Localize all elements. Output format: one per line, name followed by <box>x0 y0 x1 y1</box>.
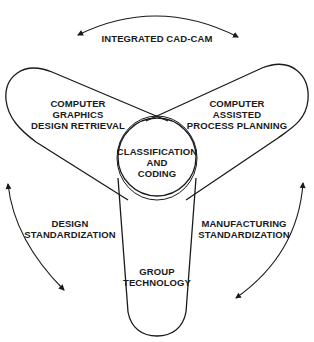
label-classification-coding: CLASSIFICATION AND CODING <box>114 146 200 179</box>
label-process-planning: COMPUTER ASSISTED PROCESS PLANNING <box>186 98 288 131</box>
label-manufacturing-standardization: MANUFACTURING STANDARDIZATION <box>196 218 292 240</box>
lobe-process-planning <box>146 64 308 200</box>
label-group-technology: GROUP TECHNOLOGY <box>117 266 197 288</box>
lobe-group-technology <box>118 178 196 336</box>
label-integrated-cad-cam: INTEGRATED CAD-CAM <box>90 33 224 44</box>
label-design-standardization: DESIGN STANDARDIZATION <box>22 218 118 240</box>
label-computer-graphics: COMPUTER GRAPHICS DESIGN RETRIEVAL <box>30 98 126 131</box>
arrow-manufacturing-standardization <box>236 183 303 298</box>
lobe-computer-graphics <box>6 68 168 200</box>
